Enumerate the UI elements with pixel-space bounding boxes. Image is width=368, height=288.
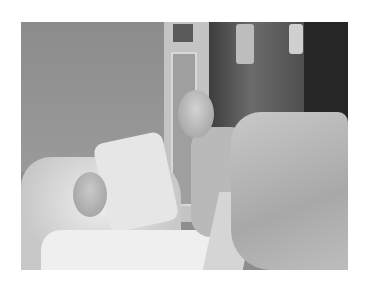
protective-gown <box>231 112 348 270</box>
patient-head <box>73 172 107 217</box>
iv-bag <box>236 24 254 64</box>
visitor-head <box>178 90 214 138</box>
door-window <box>173 24 193 42</box>
iv-bag-2 <box>289 24 303 54</box>
hospital-photo <box>21 22 348 270</box>
